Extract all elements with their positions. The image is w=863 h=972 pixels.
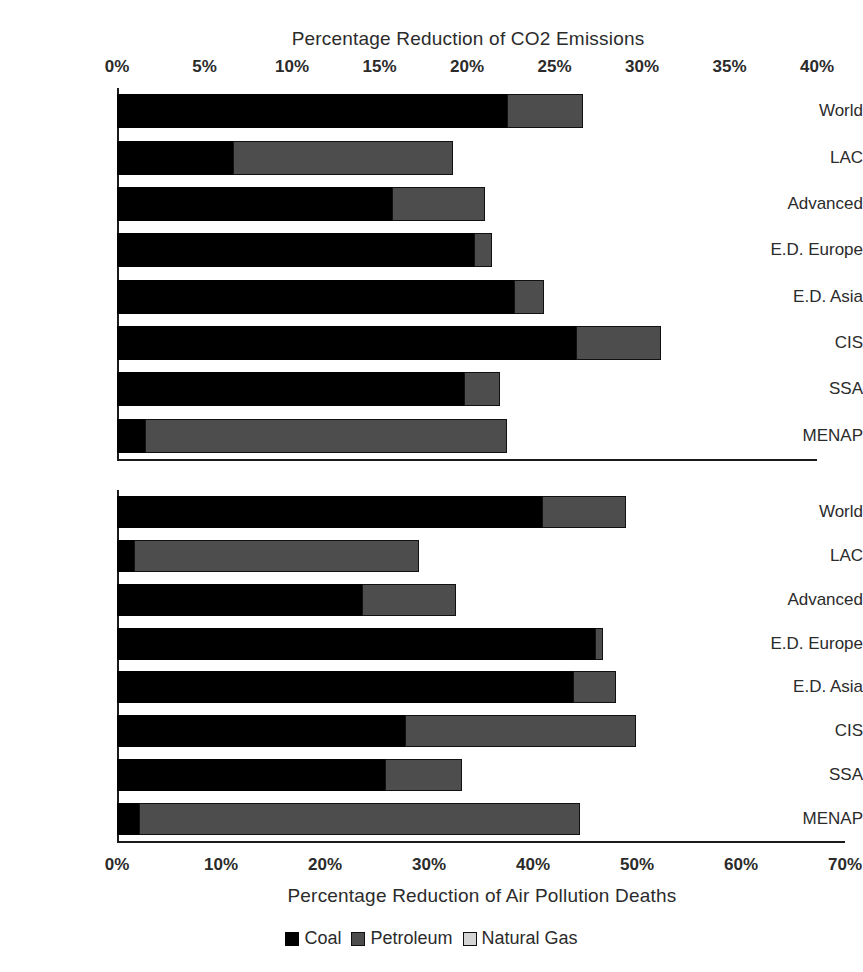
co2-segment-natural_gas-5: [661, 326, 729, 360]
legend-item-coal: Coal: [285, 928, 341, 949]
co2-bar-5: [117, 326, 730, 360]
deaths-segment-petroleum-6: [385, 759, 462, 791]
co2-segment-petroleum-6: [464, 372, 501, 406]
co2-segment-petroleum-4: [514, 280, 544, 314]
legend-label-petroleum: Petroleum: [370, 928, 452, 949]
legend-item-natural-gas: Natural Gas: [463, 928, 578, 949]
co2-category-label-7: MENAP: [751, 426, 863, 446]
legend-swatch-petroleum-icon: [351, 932, 365, 946]
co2-bar-7: [117, 419, 572, 453]
co2-category-label-2: Advanced: [751, 194, 863, 214]
deaths-bar-5: [117, 715, 636, 747]
co2-xtick-6: 30%: [625, 57, 659, 77]
deaths-bar-3: [117, 628, 603, 660]
co2-category-label-4: E.D. Asia: [751, 287, 863, 307]
deaths-segment-petroleum-0: [542, 496, 625, 528]
deaths-segment-coal-4: [117, 671, 573, 703]
deaths-category-label-3: E.D. Europe: [751, 634, 863, 654]
co2-segment-coal-3: [117, 233, 474, 267]
deaths-category-label-5: CIS: [751, 721, 863, 741]
co2-bar-2: [117, 187, 523, 221]
deaths-category-label-1: LAC: [751, 546, 863, 566]
deaths-xtick-6: 60%: [724, 855, 758, 875]
co2-segment-petroleum-7: [145, 419, 507, 453]
co2-bar-6: [117, 372, 507, 406]
deaths-xtick-0: 0%: [105, 855, 130, 875]
co2-segment-petroleum-0: [507, 94, 582, 128]
co2-category-label-1: LAC: [751, 148, 863, 168]
deaths-x-axis-line: [117, 841, 845, 843]
chart-page: Percentage Reduction of CO2 Emissions 0%…: [0, 0, 863, 972]
co2-segment-natural_gas-3: [492, 233, 511, 267]
deaths-segment-coal-1: [117, 540, 134, 572]
co2-xtick-8: 40%: [800, 57, 834, 77]
deaths-bar-7: [117, 803, 580, 835]
co2-segment-coal-5: [117, 326, 576, 360]
deaths-plot-area: WorldLACAdvancedE.D. EuropeE.D. AsiaCISS…: [0, 490, 863, 845]
co2-xtick-1: 5%: [192, 57, 217, 77]
deaths-bar-4: [117, 671, 616, 703]
deaths-category-label-6: SSA: [751, 765, 863, 785]
deaths-xtick-4: 40%: [516, 855, 550, 875]
deaths-xtick-1: 10%: [204, 855, 238, 875]
co2-segment-natural_gas-2: [485, 187, 524, 221]
deaths-bar-2: [117, 584, 456, 616]
deaths-segment-coal-2: [117, 584, 362, 616]
legend-label-natural-gas: Natural Gas: [482, 928, 578, 949]
co2-segment-natural_gas-6: [500, 372, 507, 406]
co2-segment-natural_gas-7: [507, 419, 572, 453]
co2-xtick-3: 15%: [362, 57, 396, 77]
co2-bar-3: [117, 233, 511, 267]
deaths-segment-coal-6: [117, 759, 385, 791]
deaths-segment-petroleum-5: [405, 715, 636, 747]
deaths-bar-1: [117, 540, 419, 572]
deaths-xtick-2: 20%: [308, 855, 342, 875]
deaths-chart-title: Percentage Reduction of Air Pollution De…: [118, 885, 846, 907]
co2-xtick-4: 20%: [450, 57, 484, 77]
co2-segment-petroleum-1: [233, 141, 454, 175]
co2-x-axis-line: [117, 459, 817, 461]
deaths-bar-0: [117, 496, 626, 528]
co2-segment-coal-0: [117, 94, 507, 128]
deaths-bar-6: [117, 759, 462, 791]
deaths-segment-coal-5: [117, 715, 405, 747]
co2-category-label-0: World: [751, 101, 863, 121]
deaths-category-label-7: MENAP: [751, 809, 863, 829]
co2-segment-coal-6: [117, 372, 464, 406]
co2-bar-0: [117, 94, 607, 128]
deaths-category-label-0: World: [751, 502, 863, 522]
co2-segment-coal-7: [117, 419, 145, 453]
deaths-category-label-4: E.D. Asia: [751, 677, 863, 697]
co2-xtick-7: 35%: [712, 57, 746, 77]
co2-segment-coal-2: [117, 187, 392, 221]
deaths-segment-coal-3: [117, 628, 595, 660]
co2-chart-title: Percentage Reduction of CO2 Emissions: [118, 28, 818, 50]
co2-segment-petroleum-5: [576, 326, 662, 360]
legend-swatch-coal-icon: [285, 932, 299, 946]
deaths-xtick-7: 70%: [828, 855, 862, 875]
co2-plot-area: WorldLACAdvancedE.D. EuropeE.D. AsiaCISS…: [0, 88, 863, 463]
co2-x-axis-ticks: 0%5%10%15%20%25%30%35%40%: [0, 57, 863, 81]
co2-category-label-3: E.D. Europe: [751, 240, 863, 260]
co2-segment-petroleum-2: [392, 187, 485, 221]
deaths-segment-coal-7: [117, 803, 139, 835]
co2-segment-coal-4: [117, 280, 514, 314]
deaths-xtick-3: 30%: [412, 855, 446, 875]
co2-segment-coal-1: [117, 141, 233, 175]
co2-emissions-chart: Percentage Reduction of CO2 Emissions 0%…: [0, 0, 863, 470]
legend-label-coal: Coal: [304, 928, 341, 949]
deaths-segment-coal-0: [117, 496, 542, 528]
legend-item-petroleum: Petroleum: [351, 928, 452, 949]
co2-segment-petroleum-3: [474, 233, 492, 267]
deaths-category-label-2: Advanced: [751, 590, 863, 610]
deaths-segment-petroleum-7: [139, 803, 580, 835]
deaths-x-axis-ticks: 0%10%20%30%40%50%60%70%: [0, 855, 863, 879]
deaths-segment-petroleum-1: [134, 540, 419, 572]
co2-bar-4: [117, 280, 544, 314]
legend-swatch-natural-gas-icon: [463, 932, 477, 946]
co2-category-label-5: CIS: [751, 333, 863, 353]
air-pollution-deaths-chart: WorldLACAdvancedE.D. EuropeE.D. AsiaCISS…: [0, 480, 863, 900]
co2-xtick-5: 25%: [537, 57, 571, 77]
deaths-xtick-5: 50%: [620, 855, 654, 875]
co2-bar-1: [117, 141, 521, 175]
